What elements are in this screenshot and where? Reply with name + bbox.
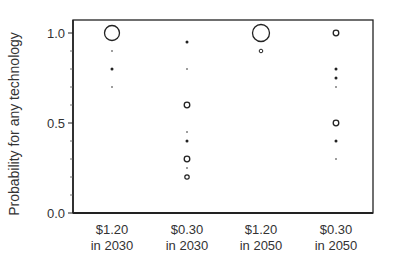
filled-dot-marker (186, 131, 188, 133)
open-circle-marker (184, 102, 190, 108)
y-tick-label: 1.0 (47, 26, 65, 41)
open-circle-marker (185, 175, 189, 179)
filled-dot-marker (111, 68, 114, 71)
scatter-chart: Probability for any technology 0.00.51.0… (0, 0, 393, 266)
x-category-label-line2: in 2050 (240, 238, 283, 253)
filled-dot-marker (111, 86, 113, 88)
filled-dot-marker (335, 158, 337, 160)
open-circle-marker (333, 30, 339, 36)
filled-dot-marker (186, 68, 188, 70)
open-circle-marker (105, 26, 120, 41)
filled-dot-marker (186, 167, 188, 169)
filled-dot-marker (186, 140, 189, 143)
y-tick-label: 0.0 (47, 206, 65, 221)
y-axis-label: Probability for any technology (6, 32, 22, 216)
x-category-label-line1: $0.30 (320, 222, 353, 237)
open-circle-marker (253, 25, 270, 42)
open-circle-marker (259, 49, 263, 53)
filled-dot-marker (335, 77, 338, 80)
y-axis-ticks: 0.00.51.0 (47, 26, 73, 221)
data-points (105, 25, 339, 180)
x-category-label-line1: $1.20 (96, 222, 129, 237)
x-category-label-line2: in 2030 (166, 238, 209, 253)
plot-frame (73, 20, 373, 213)
x-category-label-line2: in 2050 (315, 238, 358, 253)
open-circle-marker (333, 120, 339, 126)
open-circle-marker (184, 156, 190, 162)
filled-dot-marker (335, 86, 337, 88)
filled-dot-marker (186, 41, 189, 44)
chart-canvas: Probability for any technology 0.00.51.0… (0, 0, 393, 266)
x-category-label-line1: $1.20 (245, 222, 278, 237)
filled-dot-marker (111, 50, 113, 52)
filled-dot-marker (335, 140, 338, 143)
y-axis-title: Probability for any technology (6, 32, 22, 216)
x-category-label-line2: in 2030 (91, 238, 134, 253)
y-tick-label: 0.5 (47, 116, 65, 131)
plot-axes (73, 20, 373, 213)
filled-dot-marker (335, 68, 338, 71)
x-axis-labels: $1.20in 2030$0.30in 2030$1.20in 2050$0.3… (91, 222, 358, 253)
x-category-label-line1: $0.30 (171, 222, 204, 237)
